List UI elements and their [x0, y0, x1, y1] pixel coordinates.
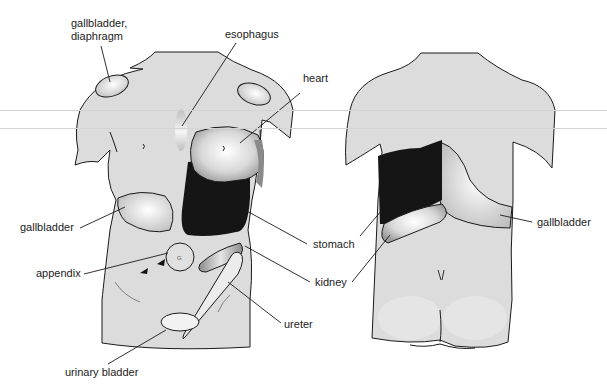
front-torso: G [75, 52, 293, 349]
heart-area [190, 127, 263, 182]
referred-pain-diagram: G [0, 0, 607, 386]
label-urinary-bladder: urinary bladder [65, 366, 138, 379]
urinary-bladder-area [161, 313, 199, 331]
label-stomach: stomach [313, 238, 355, 251]
label-gallbladder-front: gallbladder [20, 221, 74, 234]
label-heart: heart [303, 72, 328, 85]
label-line-1: gallbladder, [71, 17, 127, 30]
svg-text:G: G [177, 255, 182, 261]
label-appendix: appendix [36, 267, 81, 280]
label-line-2: diaphragm [71, 30, 127, 43]
label-ureter: ureter [284, 318, 313, 331]
scan-band [0, 110, 607, 111]
back-torso [346, 53, 556, 349]
label-gallbladder-diaphragm: gallbladder, diaphragm [71, 17, 127, 43]
esophagus-area [175, 109, 187, 151]
label-gallbladder-back: gallbladder [537, 216, 591, 229]
label-kidney: kidney [315, 276, 347, 289]
label-esophagus: esophagus [225, 28, 279, 41]
scan-band [0, 128, 607, 129]
